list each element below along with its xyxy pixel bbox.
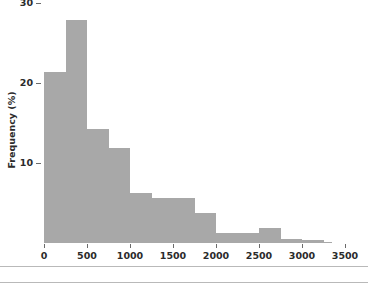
chart-canvas: 0500100015002000250030003500 102030 Freq… (0, 0, 368, 284)
histogram-bar (66, 20, 88, 243)
x-tick-label: 500 (77, 250, 97, 261)
histogram-bar (152, 198, 174, 243)
y-tick-label: 30 (20, 0, 34, 8)
histogram-bar (259, 228, 281, 243)
histogram-bar (216, 233, 238, 243)
y-tick-label: 10 (20, 157, 34, 168)
y-tick-label: 20 (20, 77, 34, 88)
x-tick-label: 2500 (246, 250, 273, 261)
histogram-bar (173, 198, 195, 243)
histogram-bar (109, 148, 131, 243)
histogram-bar (44, 72, 66, 243)
x-tick-label: 1500 (160, 250, 187, 261)
histogram-bar (281, 239, 303, 243)
histogram-bar (87, 129, 109, 243)
histogram-bar (302, 240, 324, 243)
histogram-bar (195, 213, 217, 243)
histogram-bar (238, 233, 260, 243)
histogram-bar (324, 242, 333, 243)
x-tick-label: 1000 (117, 250, 144, 261)
x-tick-label: 0 (41, 250, 48, 261)
x-tick-label: 3000 (289, 250, 316, 261)
x-tick-label: 2000 (203, 250, 230, 261)
y-axis-title: Frequency (%) (6, 91, 17, 168)
histogram-figure: 0500100015002000250030003500 102030 Freq… (0, 0, 368, 284)
histogram-bar (130, 193, 152, 243)
x-tick-label: 3500 (332, 250, 359, 261)
